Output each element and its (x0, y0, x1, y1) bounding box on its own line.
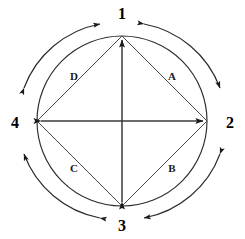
diagram-canvas (0, 0, 245, 239)
node-label-3: 3 (118, 218, 126, 234)
circular-cycle-diagram: 1 2 3 4 A B C D (0, 0, 245, 239)
side-label-c: C (70, 163, 78, 174)
outer-arc-upper-left (24, 24, 100, 88)
node-label-1: 1 (118, 6, 126, 22)
side-label-b: B (168, 163, 175, 174)
node-label-4: 4 (11, 115, 19, 131)
side-label-a: A (168, 71, 176, 82)
node-label-2: 2 (226, 115, 234, 131)
outer-arc-lower-right (144, 154, 220, 218)
outer-arc-upper-right (144, 24, 220, 88)
side-label-d: D (70, 71, 78, 82)
outer-arc-lower-left (24, 154, 100, 218)
